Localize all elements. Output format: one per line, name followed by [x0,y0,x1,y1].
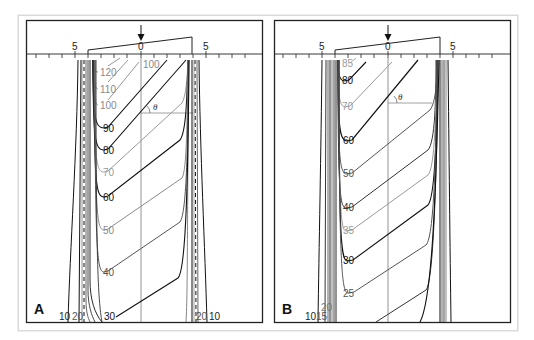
panel-b-contour-label-25: 25 [343,288,355,299]
panel-b-contour-label-60: 60 [343,135,355,146]
panel-b-contour-label-30: 30 [343,255,355,266]
panel-b-contour-label-50: 50 [343,168,355,179]
panel-a-contour-label-90: 90 [103,123,115,134]
panel-a-contour-label-100-left: 100 [100,100,117,111]
panel-a-theta-label: θ [153,102,158,112]
panel-a-contour-label-40: 40 [103,267,115,278]
panel-b: 5 0 5 θ [275,21,511,323]
panel-b-letter: B [282,301,292,317]
panel-b-bottom-label-20: 20 [321,302,333,313]
panel-a-contour-label-50: 50 [103,225,115,236]
panel-a-bottom-label-10-right: 10 [209,311,221,322]
panel-b-contour-label-70: 70 [342,101,354,112]
panel-a-letter: A [34,301,44,317]
panel-a-contour-label-30: 30 [104,311,116,322]
panel-b-axis-label-right: 5 [450,41,456,52]
panel-a-contour-label-80: 80 [103,145,115,156]
panel-a-axis-label-right: 5 [203,41,209,52]
panel-a-contour-label-100-top: 100 [143,59,160,70]
panel-b-axis-label-center: 0 [385,41,391,52]
panel-a: 5 0 5 θ [27,21,263,323]
panel-a-contour-label-120: 120 [100,67,117,78]
panel-a-bottom-label-20-right: 20 [196,311,208,322]
panel-b-axis-label-left: 5 [319,41,325,52]
panel-a-contour-label-110: 110 [100,84,116,95]
panel-b-theta-label: θ [398,92,403,102]
panel-b-contour-label-35: 35 [343,225,355,236]
panel-b-contour-label-40: 40 [343,202,355,213]
panel-b-contour-label-80: 80 [342,75,354,86]
panel-b-contour-label-85: 85 [342,58,354,69]
panel-a-contour-label-70: 70 [103,167,115,178]
panel-a-contour-label-60: 60 [103,192,115,203]
panel-a-bottom-label-10-left: 10 [59,311,71,322]
panel-a-axis-label-left: 5 [72,41,78,52]
panel-b-bottom-label-10: 10 [305,311,317,322]
figure-canvas: 5 0 5 θ [0,0,534,340]
panel-b-frame [275,21,511,323]
panel-a-bottom-label-20-left: 20 [72,311,84,322]
